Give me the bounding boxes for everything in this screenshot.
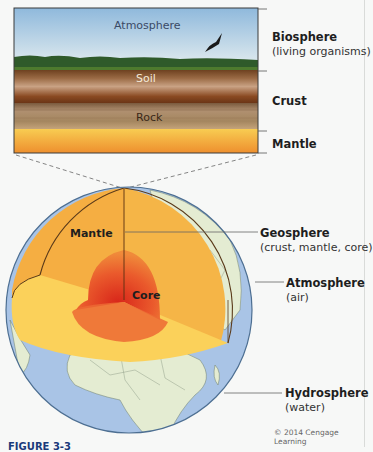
soil-band-label: Soil (136, 72, 156, 85)
hydrosphere-label: Hydrosphere (285, 386, 368, 400)
mantle-side-label: Mantle (272, 137, 317, 151)
layer-ticks (258, 9, 267, 153)
geosphere-label: Geosphere (260, 226, 330, 240)
globe (6, 187, 252, 440)
globe-mantle-label: Mantle (70, 227, 113, 240)
atmosphere-callout-label: Atmosphere (286, 276, 365, 290)
globe-core-label: Core (132, 289, 161, 302)
atmosphere-band-label: Atmosphere (114, 19, 181, 32)
hydrosphere-sublabel: (water) (285, 401, 325, 414)
atmosphere-callout-sublabel: (air) (286, 291, 309, 304)
biosphere-label: Biosphere (272, 30, 337, 44)
rock-band-label: Rock (136, 111, 162, 124)
geosphere-sublabel: (crust, mantle, core) (260, 241, 373, 254)
copyright-credit: © 2014 Cengage Learning (274, 428, 369, 446)
figure-caption: FIGURE 3-3 (8, 441, 71, 452)
crust-label: Crust (272, 94, 307, 108)
biosphere-sublabel: (living organisms) (272, 45, 371, 58)
zoom-lines (16, 155, 256, 188)
